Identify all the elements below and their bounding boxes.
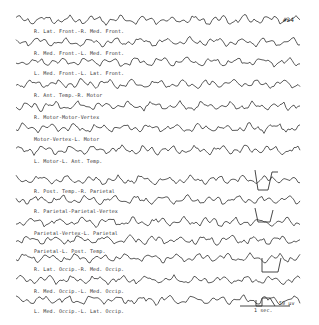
channel-label: Parietal-L. Post. Temp. [34, 248, 106, 254]
eeg-trace [16, 275, 300, 285]
eeg-trace [16, 295, 300, 306]
channel-label: Motor-Vertex-L. Motor [34, 136, 99, 142]
eeg-trace [16, 145, 300, 156]
channel-label: R. Med. Front.-L. Med. Front. [34, 50, 124, 56]
channel-label: Parietal-Vertex-L. Parietal [34, 230, 118, 236]
eeg-trace [16, 57, 300, 67]
eeg-trace [16, 15, 300, 26]
eeg-trace [16, 253, 300, 263]
channel-label: R. Ant. Temp.-R. Motor [34, 92, 102, 98]
channel-label: L. Med. Occip.-L. Lat. Occip. [34, 308, 124, 314]
eeg-trace [16, 195, 300, 205]
scale-bar-amplitude: 50 µv [279, 300, 295, 306]
channel-label: L. Motor-L. Ant. Temp. [34, 158, 102, 164]
channel-label: R. Lat. Front.-R. Med. Front. [34, 28, 124, 34]
eeg-trace [16, 123, 300, 134]
channel-label: R. Med. Occip.-L. Med. Occip. [34, 288, 124, 294]
artifact-and-scale-marks [240, 170, 290, 306]
channel-label: R. Motor-Motor-Vertex [34, 114, 99, 120]
scale-bar-time: 1 sec. [254, 307, 273, 313]
channel-label: R. Parietal-Parietal-Vertex [34, 208, 118, 214]
eeg-trace [16, 36, 300, 47]
channel-label: R. Post. Temp.-R. Parietal [34, 188, 115, 194]
figure-number: #24 [283, 16, 294, 23]
eeg-trace [16, 79, 300, 89]
channel-label: L. Med. Front.-L. Lat. Front. [34, 70, 124, 76]
channel-label: R. Lat. Occip.-R. Med. Occip. [34, 266, 124, 272]
eeg-trace [16, 235, 300, 246]
eeg-trace [16, 101, 300, 112]
